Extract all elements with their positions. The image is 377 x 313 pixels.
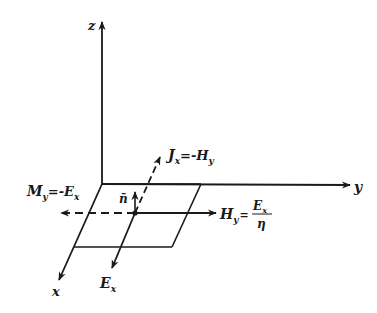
m-current-label: My=-Ex — [26, 183, 80, 202]
j-current-label: Jx=-Hy — [165, 147, 215, 166]
h-field-denominator: η — [257, 217, 266, 231]
field-diagram: z y x Hy= Ex η My=-Ex — [0, 0, 377, 313]
normal-vector: n̄ — [119, 192, 135, 213]
z-axis-label: z — [87, 18, 96, 33]
h-field-numerator: Ex — [252, 199, 267, 215]
normal-label: n̄ — [119, 192, 128, 206]
h-field-label: Hy= — [219, 206, 249, 225]
aperture-plane — [74, 184, 201, 247]
e-field-arrow: Ex — [99, 213, 135, 294]
h-field-arrow: Hy= Ex η — [135, 199, 272, 231]
y-axis-label: y — [353, 179, 363, 195]
y-axis: y — [102, 179, 363, 195]
z-axis: z — [87, 18, 102, 184]
j-current-arrow: Jx=-Hy — [135, 147, 215, 213]
x-axis-label: x — [51, 284, 60, 299]
e-field-label: Ex — [99, 275, 117, 294]
